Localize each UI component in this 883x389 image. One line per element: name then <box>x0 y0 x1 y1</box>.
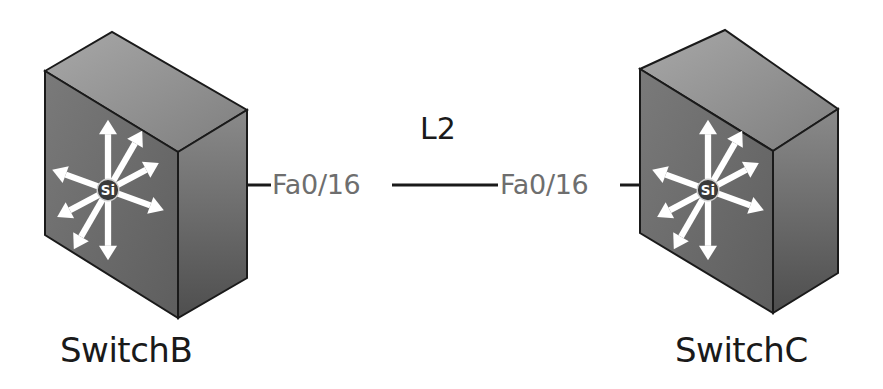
switch-b-icon[interactable] <box>45 32 247 318</box>
switch-c-label: SwitchC <box>675 333 808 367</box>
switch-c-icon[interactable] <box>640 30 838 313</box>
switch-c-port-label: Fa0/16 <box>500 171 588 198</box>
switch-b-label: SwitchB <box>60 333 192 367</box>
switch-b-port-label: Fa0/16 <box>272 171 360 198</box>
link-label: L2 <box>420 114 456 144</box>
